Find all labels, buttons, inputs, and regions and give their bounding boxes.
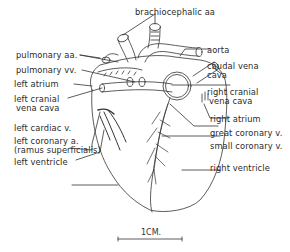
right-cranial-vena-cava bbox=[163, 72, 191, 100]
label-right-cranial-vena-cava-2: vena cava bbox=[209, 97, 253, 106]
label-left-cranial-vena-cava-2: vena cava bbox=[16, 104, 60, 113]
label-right-atrium: right atrium bbox=[210, 115, 261, 124]
label-ramus-superficialis: (ramus superficialis) bbox=[14, 146, 101, 155]
label-left-atrium: left atrium bbox=[14, 80, 59, 89]
scale-bar-label: 1CM. bbox=[141, 228, 161, 237]
label-pulmonary-aa: pulmonary aa. bbox=[16, 51, 77, 60]
label-brachiocephalic-aa: brachiocephalic aa bbox=[135, 8, 215, 17]
label-left-cardiac-v: left cardiac v. bbox=[14, 124, 71, 133]
label-pulmonary-vv: pulmonary vv. bbox=[16, 66, 76, 75]
label-caudal-vena-cava-2: cava bbox=[207, 71, 227, 80]
label-left-ventricle: left ventricle bbox=[14, 158, 68, 167]
scale-bar bbox=[118, 237, 182, 241]
label-great-coronary-v: great coronary v. bbox=[210, 129, 282, 138]
label-right-ventricle: right ventricle bbox=[210, 164, 270, 173]
label-aorta: aorta bbox=[207, 46, 229, 55]
label-small-coronary-v: small coronary v. bbox=[210, 142, 283, 151]
